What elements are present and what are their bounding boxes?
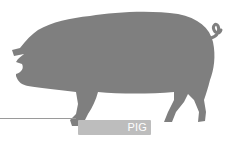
label-leader-line xyxy=(0,118,76,119)
label-text: PIG xyxy=(127,121,147,134)
pig-infographic: PIG xyxy=(0,0,239,154)
label-tag: PIG xyxy=(78,120,151,135)
